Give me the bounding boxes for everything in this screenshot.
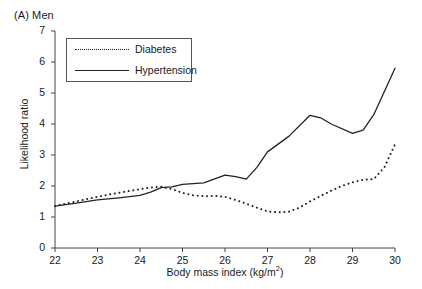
x-axis-tick-label: 24 bbox=[129, 254, 151, 266]
y-axis-tick-label: 3 bbox=[29, 148, 45, 160]
chart-legend: Diabetes Hypertension bbox=[66, 38, 192, 82]
x-axis-tick-label: 25 bbox=[172, 254, 194, 266]
data-series-group bbox=[55, 68, 395, 212]
legend-swatch-solid-line-icon bbox=[75, 70, 129, 73]
x-axis-tick-label: 27 bbox=[257, 254, 279, 266]
x-axis-tick-label: 29 bbox=[342, 254, 364, 266]
x-axis-tick-label: 30 bbox=[384, 254, 406, 266]
y-axis-tick-label: 4 bbox=[29, 117, 45, 129]
chart-figure: (A) Men Likelihood ratio Body mass index… bbox=[0, 0, 422, 289]
data-line-diabetes bbox=[55, 144, 395, 212]
y-axis-tick-label: 0 bbox=[29, 241, 45, 253]
x-axis-tick-label: 22 bbox=[44, 254, 66, 266]
x-axis-tick-label: 23 bbox=[87, 254, 109, 266]
y-axis-tick-label: 2 bbox=[29, 179, 45, 191]
y-axis-tick-label: 6 bbox=[29, 55, 45, 67]
x-axis-tick-label: 26 bbox=[214, 254, 236, 266]
y-axis-tick-label: 1 bbox=[29, 210, 45, 222]
legend-swatch-dotted-line-icon bbox=[75, 49, 129, 52]
legend-item-diabetes: Diabetes bbox=[67, 39, 193, 61]
legend-item-hypertension: Hypertension bbox=[67, 60, 193, 82]
legend-label: Hypertension bbox=[135, 64, 197, 76]
legend-label: Diabetes bbox=[135, 43, 176, 55]
y-axis-tick-label: 5 bbox=[29, 86, 45, 98]
plot-area bbox=[0, 0, 422, 289]
y-axis-tick-label: 7 bbox=[29, 24, 45, 36]
x-axis-tick-label: 28 bbox=[299, 254, 321, 266]
x-axis-ticks bbox=[55, 248, 395, 252]
y-axis-ticks bbox=[51, 31, 55, 248]
